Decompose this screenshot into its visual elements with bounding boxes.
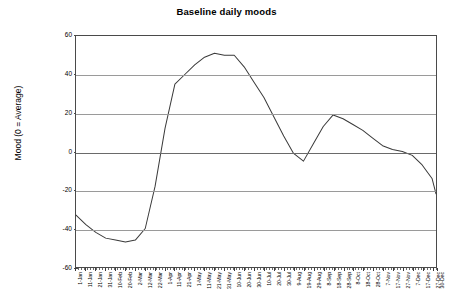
chart-title: Baseline daily moods bbox=[0, 6, 453, 17]
x-tick-mark bbox=[108, 268, 109, 270]
y-tick-label--60: -60 bbox=[46, 264, 72, 271]
x-tick-mark bbox=[191, 268, 192, 270]
x-tick-mark bbox=[239, 268, 240, 270]
x-tick-mark-major bbox=[344, 268, 345, 271]
x-tick-mark bbox=[138, 268, 139, 270]
chart-page: Baseline daily moods Mood (0 = Average) … bbox=[0, 0, 453, 301]
x-tick-mark-major bbox=[204, 268, 205, 271]
x-tick-mark bbox=[117, 268, 118, 270]
x-tick-mark bbox=[397, 268, 398, 270]
x-tick-mark bbox=[427, 268, 428, 270]
x-tick-label: 1-Apr bbox=[167, 272, 173, 284]
x-tick-mark-major bbox=[393, 268, 394, 271]
x-tick-mark-major bbox=[353, 268, 354, 271]
x-tick-mark bbox=[176, 268, 177, 270]
x-tick-label: 30-Jul bbox=[286, 272, 292, 286]
x-tick-mark bbox=[376, 268, 377, 270]
x-tick-mark-major bbox=[403, 268, 404, 271]
x-tick-mark-major bbox=[423, 268, 424, 271]
x-tick-mark bbox=[317, 268, 318, 270]
x-tick-mark-major bbox=[145, 268, 146, 271]
x-tick-mark bbox=[349, 268, 350, 270]
gridline-40 bbox=[76, 75, 436, 76]
x-tick-label: 19-Aug bbox=[306, 272, 312, 288]
x-tick-label: 10-Jul bbox=[266, 272, 272, 286]
x-tick-mark bbox=[81, 268, 82, 270]
x-tick-mark-major bbox=[234, 268, 235, 271]
x-tick-label: 28-Oct bbox=[375, 272, 381, 287]
x-tick-mark bbox=[93, 268, 94, 270]
x-tick-mark bbox=[120, 268, 121, 270]
x-tick-label: 20-Jul bbox=[276, 272, 282, 286]
x-tick-label: 11-Apr bbox=[176, 272, 182, 287]
x-tick-mark bbox=[123, 268, 124, 270]
x-tick-mark bbox=[409, 268, 410, 270]
x-tick-mark-major bbox=[294, 268, 295, 271]
y-tick-label-60: 60 bbox=[46, 31, 72, 38]
x-tick-mark bbox=[218, 268, 219, 270]
x-tick-label: 18-Oct bbox=[365, 272, 371, 287]
x-tick-mark bbox=[188, 268, 189, 270]
x-tick-label: 12-Mar bbox=[147, 272, 153, 288]
x-tick-mark-major bbox=[165, 268, 166, 271]
x-tick-mark-major bbox=[125, 268, 126, 271]
x-tick-mark bbox=[111, 268, 112, 270]
y-tick-label-40: 40 bbox=[46, 70, 72, 77]
x-tick-mark bbox=[236, 268, 237, 270]
x-tick-mark bbox=[400, 268, 401, 270]
x-tick-label: 2-Mar bbox=[137, 272, 143, 285]
gridline--20 bbox=[76, 191, 436, 192]
x-tick-mark bbox=[391, 268, 392, 270]
x-tick-mark bbox=[347, 268, 348, 270]
y-tick-label--20: -20 bbox=[46, 186, 72, 193]
x-tick-label: 30-Dec bbox=[439, 272, 445, 288]
x-tick-label: 20-Feb bbox=[127, 272, 133, 288]
x-tick-mark bbox=[147, 268, 148, 270]
x-tick-mark bbox=[150, 268, 151, 270]
gridline--40 bbox=[76, 230, 436, 231]
x-tick-mark bbox=[170, 268, 171, 270]
x-tick-mark bbox=[305, 268, 306, 270]
x-tick-mark bbox=[126, 268, 127, 270]
x-tick-mark-major bbox=[314, 268, 315, 271]
x-tick-mark bbox=[421, 268, 422, 270]
x-tick-mark bbox=[299, 268, 300, 270]
x-tick-mark bbox=[215, 268, 216, 270]
x-tick-mark bbox=[335, 268, 336, 270]
x-tick-mark bbox=[96, 268, 97, 270]
x-tick-mark bbox=[415, 268, 416, 270]
x-tick-mark bbox=[269, 268, 270, 270]
x-tick-label: 7-Dec bbox=[415, 272, 421, 286]
x-tick-mark-major bbox=[334, 268, 335, 271]
x-tick-label: 18-Sep bbox=[336, 272, 342, 288]
x-tick-mark-major bbox=[95, 268, 96, 271]
x-tick-mark bbox=[212, 268, 213, 270]
x-tick-mark bbox=[132, 268, 133, 270]
x-tick-mark-major bbox=[373, 268, 374, 271]
x-tick-mark bbox=[430, 268, 431, 270]
x-tick-mark bbox=[179, 268, 180, 270]
x-tick-mark bbox=[266, 268, 267, 270]
x-tick-mark-major bbox=[433, 268, 434, 271]
x-tick-mark bbox=[341, 268, 342, 270]
x-tick-mark-major bbox=[363, 268, 364, 271]
x-tick-mark-major bbox=[214, 268, 215, 271]
y-tick-label--40: -40 bbox=[46, 225, 72, 232]
x-tick-mark-major bbox=[324, 268, 325, 271]
x-tick-mark bbox=[361, 268, 362, 270]
x-tick-mark bbox=[281, 268, 282, 270]
x-tick-mark bbox=[296, 268, 297, 270]
x-tick-mark bbox=[185, 268, 186, 270]
x-tick-mark bbox=[251, 268, 252, 270]
x-tick-mark-major bbox=[115, 268, 116, 271]
y-axis-title: Mood (0 = Average) bbox=[13, 43, 23, 203]
x-tick-label: 11-May bbox=[206, 272, 212, 289]
x-tick-label: 28-Sep bbox=[346, 272, 352, 288]
x-tick-label: 21-Jan bbox=[97, 272, 103, 288]
x-tick-mark bbox=[159, 268, 160, 270]
x-tick-mark bbox=[200, 268, 201, 270]
x-tick-mark bbox=[406, 268, 407, 270]
x-tick-mark bbox=[332, 268, 333, 270]
x-tick-mark bbox=[227, 268, 228, 270]
x-tick-label: 9-Aug bbox=[296, 272, 302, 286]
